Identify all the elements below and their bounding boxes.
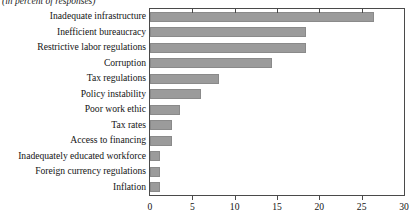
chart-subtitle: (in percent of responses) (2, 0, 95, 7)
x-axis-tick-label: 5 (177, 201, 207, 213)
x-axis-tick-label: 15 (262, 201, 292, 213)
category-label: Tax rates (0, 119, 146, 130)
bar (150, 74, 219, 84)
category-label: Restrictive labor regulations (0, 41, 146, 52)
bars-layer (150, 9, 404, 195)
x-axis-tick-label: 25 (347, 201, 377, 213)
x-axis-tick (277, 196, 278, 200)
bar (150, 58, 272, 68)
x-axis-tick-top (235, 9, 236, 13)
bar (150, 12, 374, 22)
x-axis-tick-top (277, 9, 278, 13)
bar (150, 136, 172, 146)
category-label: Inflation (0, 181, 146, 192)
bar-chart: (in percent of responses) Inadequate inf… (0, 0, 417, 218)
bar (150, 89, 201, 99)
x-axis-tick-label: 10 (220, 201, 250, 213)
x-axis-tick (319, 196, 320, 200)
bar (150, 43, 306, 53)
category-label: Corruption (0, 57, 146, 68)
x-axis-tick-label: 0 (135, 201, 165, 213)
x-axis-tick-top (362, 9, 363, 13)
bar (150, 151, 160, 161)
x-axis-tick-top (192, 9, 193, 13)
bar (150, 120, 172, 130)
category-axis-labels: Inadequate infrastructureInefficient bur… (0, 8, 146, 196)
category-label: Access to financing (0, 134, 146, 145)
bar (150, 167, 160, 177)
bar (150, 182, 160, 192)
category-label: Poor work ethic (0, 103, 146, 114)
category-label: Foreign currency regulations (0, 165, 146, 176)
x-axis-tick (235, 196, 236, 200)
x-axis-tick-top (319, 9, 320, 13)
x-axis-tick (362, 196, 363, 200)
x-axis-tick-label: 20 (304, 201, 334, 213)
category-label: Tax regulations (0, 72, 146, 83)
category-label: Inefficient bureaucracy (0, 26, 146, 37)
bar (150, 27, 306, 37)
bar (150, 105, 180, 115)
category-label: Policy instability (0, 88, 146, 99)
x-axis-tick-label: 30 (389, 201, 417, 213)
category-label: Inadequate infrastructure (0, 10, 146, 21)
x-axis-tick (192, 196, 193, 200)
category-label: Inadequately educated workforce (0, 150, 146, 161)
